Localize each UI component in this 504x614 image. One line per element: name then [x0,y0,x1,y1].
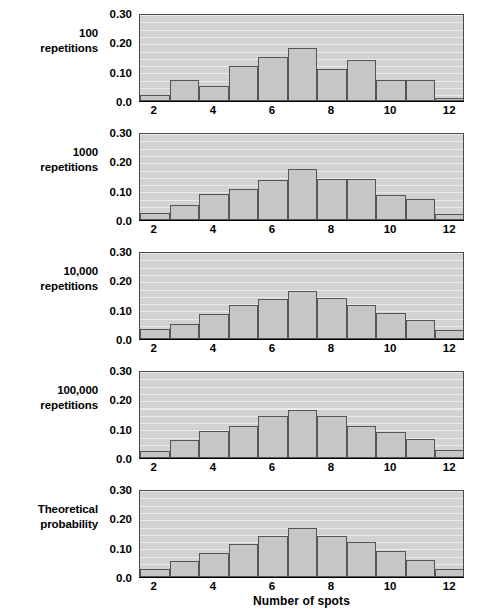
histogram-bar [317,536,347,577]
histogram-bar [258,57,288,101]
x-axis-tick-label: 12 [443,103,456,117]
histogram-bar [288,169,318,220]
x-axis-tick-label: 2 [151,460,157,474]
y-axis-tick-label: 0.0 [116,573,132,584]
histogram-bar [170,205,200,220]
y-axis-tick-label: 0.0 [116,454,132,465]
histogram-bar [406,320,436,339]
y-axis-tick-label: 0.20 [110,395,132,406]
histogram-bar [170,440,200,458]
histogram-panel: 100repetitions0.300.200.100.024681012 [0,0,504,119]
histogram-bar [199,86,229,101]
histogram-bar [140,451,170,458]
x-axis-tick-label: 12 [443,341,456,355]
x-axis-tick-label: 10 [384,222,397,236]
panel-label: 1000repetitions [0,145,98,175]
x-axis-tick-label: 12 [443,460,456,474]
x-axis-tick-label: 4 [210,222,216,236]
histogram-bar [288,291,318,339]
histogram-bar [317,69,347,101]
histogram-bar [406,439,436,458]
histogram-bar [170,80,200,101]
panel-label-line: repetitions [0,41,98,56]
y-axis-labels: 0.300.200.100.0 [96,119,136,221]
x-axis-labels: 24681012 [139,460,464,476]
histogram-bar [435,569,464,577]
histogram-bar [258,416,288,458]
y-axis-tick-label: 0.20 [110,38,132,49]
y-axis-labels: 0.300.200.100.0 [96,0,136,102]
panel-label-line: probability [0,517,98,532]
y-axis-tick-label: 0.0 [116,97,132,108]
x-axis-tick-label: 4 [210,341,216,355]
histogram-bar [199,553,229,577]
y-axis-tick-label: 0.20 [110,157,132,168]
y-axis-tick-label: 0.10 [110,186,132,197]
histogram-panel: Theoreticalprobability0.300.200.100.0246… [0,476,504,595]
x-axis-tick-label: 2 [151,222,157,236]
histogram-bar [376,80,406,101]
x-axis-line [139,101,464,102]
x-axis-tick-label: 8 [328,341,334,355]
histogram-bar [229,189,259,220]
plot-area [139,371,464,459]
x-axis-tick-label: 2 [151,103,157,117]
histogram-bar [170,561,200,577]
panel-label-line: 10,000 [0,264,98,279]
histogram-bar [288,48,318,101]
x-axis-tick-label: 4 [210,103,216,117]
x-axis-tick-label: 4 [210,579,216,593]
x-axis-labels: 24681012 [139,341,464,357]
plot-area [139,490,464,578]
x-axis-line [139,458,464,459]
histogram-bar [347,179,377,220]
x-axis-tick-label: 6 [269,341,275,355]
x-axis-tick-label: 2 [151,579,157,593]
histogram-bar [317,416,347,458]
y-axis-tick-label: 0.10 [110,305,132,316]
plot-area [139,252,464,340]
histogram-bar [406,199,436,220]
y-axis-tick-label: 0.20 [110,276,132,287]
x-axis-labels: 24681012 [139,103,464,119]
y-axis-tick-label: 0.30 [110,128,132,139]
x-axis-tick-label: 10 [384,103,397,117]
bar-series [140,15,463,101]
x-axis-tick-label: 8 [328,222,334,236]
histogram-bar [406,80,436,101]
panel-label: Theoreticalprobability [0,502,98,532]
histogram-bar [406,560,436,577]
histogram-panel: 100,000repetitions0.300.200.100.02468101… [0,357,504,476]
plot-background [139,133,464,221]
x-axis-tick-label: 12 [443,579,456,593]
histogram-bar [229,305,259,339]
y-axis-tick-label: 0.10 [110,543,132,554]
y-axis-tick-label: 0.0 [116,216,132,227]
panel-label-line: repetitions [0,398,98,413]
panel-label: 100repetitions [0,26,98,56]
y-axis-tick-label: 0.30 [110,366,132,377]
x-axis-tick-label: 10 [384,460,397,474]
histogram-bar [288,528,318,577]
histogram-bar [317,298,347,339]
histogram-bar [435,450,464,458]
x-axis-tick-label: 12 [443,222,456,236]
plot-background [139,371,464,459]
histogram-bar [199,314,229,339]
panel-label: 10,000repetitions [0,264,98,294]
x-axis-tick-label: 6 [269,222,275,236]
x-axis-tick-label: 10 [384,341,397,355]
histogram-bar [199,431,229,458]
y-axis-tick-label: 0.30 [110,485,132,496]
histogram-bar [435,330,464,339]
panel-label-line: repetitions [0,279,98,294]
histogram-bar [258,536,288,577]
histogram-bar [347,305,377,339]
x-axis-line [139,339,464,340]
x-axis-tick-label: 6 [269,460,275,474]
x-axis-tick-label: 8 [328,579,334,593]
x-axis-tick-label: 4 [210,460,216,474]
histogram-bar [376,432,406,458]
y-axis-labels: 0.300.200.100.0 [96,357,136,459]
x-axis-line [139,577,464,578]
